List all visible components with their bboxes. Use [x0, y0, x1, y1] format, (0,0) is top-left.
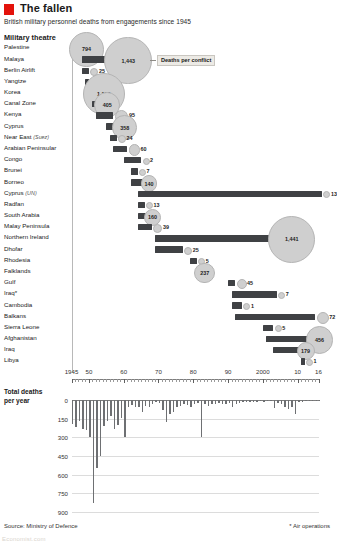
annual-death-bar	[138, 400, 139, 407]
timeline-row-label-text: Balkans	[4, 312, 26, 319]
timeline-row-label-text: Malaya	[4, 55, 24, 62]
annual-death-bar	[312, 400, 313, 401]
timeline-bar	[82, 68, 89, 74]
timeline-bar	[110, 135, 117, 141]
annual-death-bar	[295, 400, 296, 414]
annual-death-bar	[180, 400, 181, 406]
x-axis-tick	[319, 379, 320, 383]
x-axis-tick	[238, 379, 239, 382]
x-axis-tick	[197, 379, 198, 382]
timeline-row-label: Brunei	[4, 166, 22, 174]
annual-death-bar	[215, 400, 216, 404]
annual-death-bar	[246, 400, 247, 402]
timeline-bar	[138, 202, 145, 208]
timeline-bar	[190, 258, 197, 264]
x-axis-tick	[273, 379, 274, 382]
section-heading: Military theatre	[4, 33, 56, 42]
timeline-row-label-text: Rhodesia	[4, 256, 30, 263]
annual-death-bar	[72, 400, 73, 424]
x-axis-tick	[152, 379, 153, 382]
deaths-bubble-value: 237	[200, 270, 209, 276]
annual-death-bar	[232, 400, 233, 407]
timeline-row-label: South Arabia	[4, 211, 39, 219]
x-axis-tick	[193, 379, 194, 383]
x-axis-tick	[200, 379, 201, 382]
annual-death-bar	[114, 400, 115, 429]
x-axis-tick	[110, 379, 111, 382]
timeline-row-label: Malaya	[4, 55, 24, 63]
x-axis-tick-label: 10	[294, 368, 301, 375]
x-axis-tick	[284, 379, 285, 382]
timeline-row-label: Northern Ireland	[4, 233, 49, 241]
timeline-row-label-text: Near East	[4, 133, 33, 140]
deaths-bubble-value: 456	[315, 337, 324, 343]
timeline-row-label-text: Borneo	[4, 178, 24, 185]
x-axis-tick	[221, 379, 222, 382]
timeline-row-label-text: Radfan	[4, 200, 24, 207]
x-axis-tick	[124, 379, 125, 383]
deaths-bubble-value: 140	[145, 181, 154, 187]
x-axis-tick	[277, 379, 278, 382]
x-axis-tick-label: 70	[155, 368, 162, 375]
x-axis-tick	[315, 379, 316, 382]
timeline-bar	[228, 280, 235, 286]
x-axis-tick-label: 2000	[256, 368, 270, 375]
shared-x-axis: 1945506070809020001016	[0, 368, 334, 384]
timeline-bar	[232, 291, 277, 297]
timeline-row-label: Near East (Suez)	[4, 133, 49, 141]
timeline-row-label-text: Afghanistan	[4, 334, 37, 341]
timeline-row-label: Congo	[4, 155, 22, 163]
timeline-bar	[96, 112, 113, 118]
annual-death-bar	[107, 400, 108, 421]
deaths-value-label: 7	[147, 168, 150, 174]
deaths-bubble-value: 358	[120, 125, 129, 131]
timeline-row-label-text: Iraq	[4, 345, 15, 352]
x-axis-tick	[270, 379, 271, 382]
deaths-value-label: 13	[331, 191, 337, 197]
deaths-bubble: 72	[317, 312, 329, 324]
x-axis-tick	[172, 379, 173, 382]
annual-chart-title: Total deaths per year	[4, 388, 42, 405]
x-axis-tick	[211, 379, 212, 382]
annual-death-bar	[270, 400, 271, 401]
footnote: * Air operations	[289, 523, 330, 529]
x-axis-tick	[259, 379, 260, 382]
annual-death-bar	[75, 400, 76, 427]
deaths-bubble: 24	[118, 135, 126, 143]
deaths-bubble-value: 405	[103, 102, 112, 108]
timeline-row-label-text: Malay Peninsula	[4, 222, 49, 229]
deaths-bubble: 1,441	[268, 216, 316, 264]
x-axis-tick	[127, 379, 128, 382]
x-axis-tick	[72, 379, 73, 383]
x-axis-tick	[117, 379, 118, 382]
deaths-bubble: 7	[278, 292, 285, 299]
timeline-bar	[301, 358, 304, 364]
annual-death-bar	[121, 400, 122, 418]
annual-death-bar	[302, 400, 303, 402]
x-axis-tick	[308, 379, 309, 382]
timeline-bar	[263, 325, 273, 331]
deaths-bubble-value: 1,443	[121, 58, 135, 64]
timeline-row-label: Rhodesia	[4, 256, 30, 264]
timeline-row-label: Radfan	[4, 200, 24, 208]
deaths-bubble: 2	[143, 158, 150, 165]
x-axis-tick	[252, 379, 253, 382]
x-axis-tick	[214, 379, 215, 382]
timeline-row-label: Palestine	[4, 43, 29, 51]
deaths-per-conflict-callout: Deaths per conflict	[157, 55, 215, 66]
timeline-row-label-text: Congo	[4, 155, 22, 162]
timeline-row-label-qualifier: (UN)	[25, 190, 36, 196]
y-gridline	[72, 493, 319, 494]
annual-death-bar	[201, 400, 202, 437]
annual-death-bar	[155, 400, 156, 402]
timeline-row-label-text: Dhofar	[4, 245, 23, 252]
deaths-bubble-value: 794	[82, 46, 91, 52]
y-axis-tick-label: 450	[46, 453, 68, 460]
y-gridline	[72, 419, 319, 420]
x-axis-tick	[256, 379, 257, 382]
y-axis-tick-label: 300	[46, 434, 68, 441]
annual-death-bar	[124, 400, 125, 437]
x-axis-tick	[190, 379, 191, 382]
timeline-row-label: Sierra Leone	[4, 323, 39, 331]
y-gridline	[72, 456, 319, 457]
